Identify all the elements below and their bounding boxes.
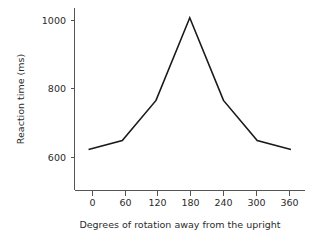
x-tick-label-300: 300 <box>247 197 265 208</box>
x-tick-label-120: 120 <box>148 197 166 208</box>
reaction-time-line-chart: 600 800 1000 0 60 120 180 240 300 360 D <box>0 0 322 242</box>
y-axis-title: Reaction time (ms) <box>15 54 26 144</box>
x-tick-label-360: 360 <box>280 197 298 208</box>
y-tick-label-600: 600 <box>48 152 66 163</box>
y-tick-label-800: 800 <box>48 83 66 94</box>
x-tick-label-240: 240 <box>214 197 232 208</box>
x-axis-title: Degrees of rotation away from the uprigh… <box>79 219 280 230</box>
x-tick-label-0: 0 <box>89 197 95 208</box>
y-tick-label-1000: 1000 <box>42 15 66 26</box>
x-tick-label-180: 180 <box>181 197 199 208</box>
chart-figure: 600 800 1000 0 60 120 180 240 300 360 D <box>0 0 322 242</box>
x-tick-label-60: 60 <box>119 197 131 208</box>
